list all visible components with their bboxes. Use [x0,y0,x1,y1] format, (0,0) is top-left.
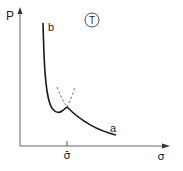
curve-a-label: a [110,122,117,134]
curve-b-dashed-extension [67,86,75,107]
y-axis-arrow-icon [18,7,23,14]
x-tick-label: σ̄ [64,149,71,162]
x-axis-label: σ [158,150,165,163]
y-axis-label: P [6,9,14,23]
curve-a-dashed-extension [57,87,67,107]
phase-diagram: T P b a σ̄ σ [0,0,183,171]
curve-b-label: b [48,21,54,33]
x-axis-arrow-icon [162,144,170,149]
curve-ab [43,23,116,135]
circle-t-label: T [89,15,95,26]
